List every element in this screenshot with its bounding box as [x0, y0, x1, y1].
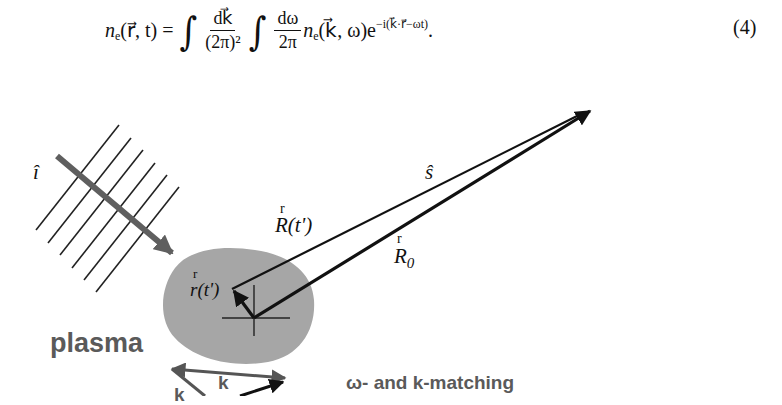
incident-wavefronts: [36, 125, 179, 292]
k-label: k: [218, 372, 229, 394]
R0-label-sub: 0: [407, 255, 415, 271]
k-label-2: k: [174, 384, 185, 405]
plasma-label: plasma: [50, 328, 143, 359]
R0-label-main: R: [394, 244, 407, 268]
scatter-direction-label: ŝ: [425, 162, 433, 183]
plasma-region: [163, 248, 314, 364]
k-vector-diagonal-right: [240, 382, 283, 396]
R-t-label: R(t'): [275, 215, 312, 236]
incident-direction-label: î: [33, 162, 39, 183]
R0-label: R0: [394, 246, 414, 271]
r-t-label: r(t'): [190, 280, 219, 299]
matching-label: ω- and k-matching: [346, 372, 514, 394]
incident-arrow: [57, 156, 172, 253]
